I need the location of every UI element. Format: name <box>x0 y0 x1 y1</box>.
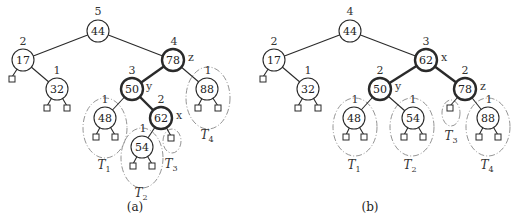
subtree-label-t2: T2 <box>403 158 416 174</box>
subtree-label-t4: T4 <box>200 128 213 144</box>
node-height: 2 <box>20 35 27 48</box>
external-node <box>112 134 118 140</box>
external-node <box>64 105 70 111</box>
node-48: 48 1 <box>343 93 365 129</box>
panel-b: 44 4 17 2 32 1 62 3 x 50 2 y 78 2 <box>260 5 510 214</box>
subtree-label-t3: T3 <box>444 129 457 145</box>
node-key: 54 <box>406 112 420 125</box>
node-height: 1 <box>205 64 212 77</box>
node-key: 62 <box>154 112 168 125</box>
node-tag-x: x <box>176 109 183 122</box>
node-key: 48 <box>347 112 361 125</box>
external-node <box>401 134 407 140</box>
edge <box>23 31 98 60</box>
node-height: 1 <box>486 93 493 106</box>
node-key: 32 <box>301 83 315 96</box>
avl-rotation-diagram: 44 5 17 2 32 1 78 4 z 88 1 50 3 y <box>0 0 516 219</box>
subtree-label-t1: T1 <box>347 158 360 174</box>
node-key: 48 <box>98 112 112 125</box>
caption-a: (a) <box>127 200 144 214</box>
edge <box>274 31 350 60</box>
external-node <box>215 105 221 111</box>
edge <box>350 31 426 60</box>
external-node <box>93 134 99 140</box>
external-node <box>44 105 50 111</box>
external-node <box>168 135 174 141</box>
node-key: 88 <box>481 112 495 125</box>
node-height: 2 <box>158 93 165 106</box>
node-44: 44 4 <box>339 5 361 42</box>
node-tag-y: y <box>145 80 153 93</box>
node-88: 88 1 <box>477 93 499 129</box>
node-height: 1 <box>140 122 147 135</box>
external-node <box>495 134 501 140</box>
panel-a: 44 5 17 2 32 1 78 4 z 88 1 50 3 y <box>9 5 230 214</box>
node-48: 48 1 <box>94 93 116 129</box>
node-height: 1 <box>352 93 359 106</box>
node-height: 2 <box>377 64 384 77</box>
node-height: 3 <box>129 64 136 77</box>
external-node <box>476 134 482 140</box>
node-key: 78 <box>166 54 180 67</box>
node-tag-z: z <box>188 51 194 64</box>
node-height: 1 <box>102 93 109 106</box>
external-node <box>149 163 155 169</box>
node-tag-y: y <box>394 80 402 93</box>
node-62-x: 62 2 x <box>150 93 183 129</box>
external-node <box>130 163 136 169</box>
node-key: 32 <box>50 83 64 96</box>
node-78-z: 78 4 z <box>162 35 194 71</box>
subtree-label-t1: T1 <box>97 158 110 174</box>
external-node <box>361 134 367 140</box>
node-height: 4 <box>347 5 354 18</box>
node-key: 50 <box>125 83 139 96</box>
node-54: 54 1 <box>402 93 424 129</box>
external-node <box>260 76 266 82</box>
node-key: 44 <box>91 25 105 38</box>
external-node <box>420 134 426 140</box>
node-50-y: 50 3 y <box>121 64 153 100</box>
external-node <box>343 134 349 140</box>
node-height: 4 <box>171 35 178 48</box>
node-height: 1 <box>305 64 312 77</box>
node-32: 32 1 <box>297 64 319 100</box>
external-node <box>295 105 301 111</box>
node-key: 17 <box>16 54 30 67</box>
external-node <box>195 105 201 111</box>
node-tag-z: z <box>480 80 486 93</box>
subtree-t3-outline <box>442 100 460 126</box>
node-key: 17 <box>267 54 281 67</box>
node-key: 44 <box>343 25 357 38</box>
node-44: 44 5 <box>87 5 109 42</box>
node-17: 17 2 <box>263 35 285 71</box>
node-17: 17 2 <box>12 35 34 71</box>
node-height: 1 <box>410 93 417 106</box>
caption-b: (b) <box>361 200 378 214</box>
node-height: 2 <box>271 35 278 48</box>
node-height: 1 <box>54 64 61 77</box>
node-height: 3 <box>423 35 430 48</box>
node-key: 50 <box>373 83 387 96</box>
node-key: 54 <box>135 141 149 154</box>
external-node <box>9 76 15 82</box>
node-78-z: 78 2 z <box>454 64 486 100</box>
node-54: 54 1 <box>131 122 153 158</box>
node-32: 32 1 <box>46 64 68 100</box>
node-key: 88 <box>200 83 214 96</box>
subtree-label-t4: T4 <box>480 158 493 174</box>
node-62-x: 62 3 x <box>415 35 448 71</box>
node-height: 5 <box>95 5 102 18</box>
node-tag-x: x <box>441 51 448 64</box>
external-node <box>315 105 321 111</box>
node-key: 62 <box>419 54 433 67</box>
node-key: 78 <box>458 83 472 96</box>
external-node <box>447 105 453 111</box>
subtree-label-t3: T3 <box>164 157 177 173</box>
node-50-y: 50 2 y <box>369 64 402 100</box>
node-88: 88 1 <box>196 64 218 100</box>
node-height: 2 <box>462 64 469 77</box>
